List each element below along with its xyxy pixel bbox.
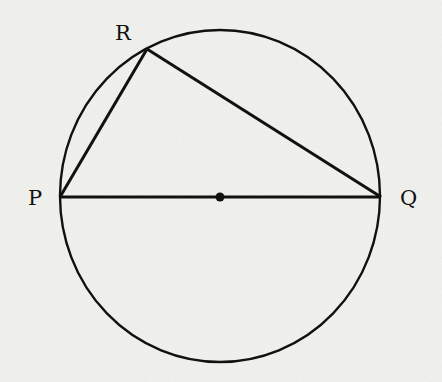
circle-triangle-diagram: P Q R [0, 0, 442, 382]
label-p: P [28, 186, 42, 210]
paper-texture [0, 0, 442, 382]
label-q: Q [400, 186, 417, 210]
label-r: R [115, 21, 132, 45]
center-point [216, 193, 225, 202]
